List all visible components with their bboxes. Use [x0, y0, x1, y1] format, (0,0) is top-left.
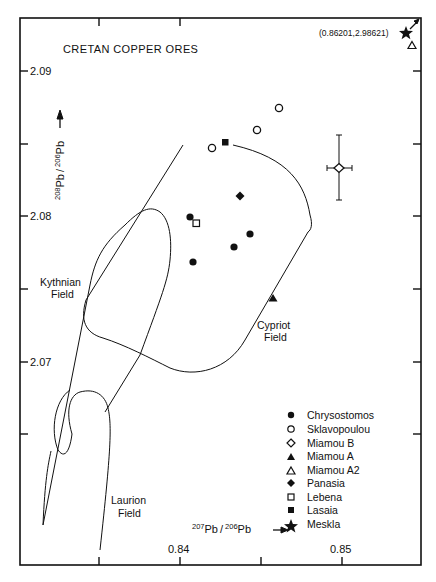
y-axis-arrow-icon [57, 110, 63, 128]
chart-title: CRETAN COPPER ORES [63, 43, 198, 55]
kythnian-field-label-2: Field [51, 288, 74, 300]
legend-label: Lebena [307, 491, 342, 503]
kythnian-field-outline [43, 209, 171, 525]
legend-marker-lasaia-icon [288, 507, 294, 513]
legend-marker-miamou-a2-icon [287, 467, 295, 474]
legend-marker-panasia-icon [287, 479, 295, 487]
y-axis-ticks [20, 71, 421, 434]
series-lasaia-point [222, 139, 229, 146]
meskla-coords-annotation: (0.86201,2.98621) [319, 28, 389, 38]
y-tick-label-2.07: 2.07 [30, 356, 51, 368]
legend-marker-sklavopoulou-icon [288, 426, 294, 432]
series-panasia-point [236, 192, 245, 201]
cypriot-field-label-2: Field [264, 331, 287, 343]
data-point [246, 230, 253, 237]
x-tick-label-0.84: 0.84 [168, 543, 189, 555]
data-point [230, 243, 237, 250]
data-point [189, 258, 196, 265]
legend-marker-miamou-b-icon [287, 439, 295, 447]
laurion-field-outline [54, 390, 110, 550]
y-axis-label: 208Pb/206Pb [53, 141, 66, 200]
series-miamou-b [327, 135, 352, 200]
series-miamou-a2-point [408, 42, 416, 49]
x-axis-label: 207Pb/206Pb [192, 522, 251, 535]
legend-marker-lebena-icon [288, 494, 294, 500]
data-point [275, 104, 282, 111]
laurion-field-label: Laurion [111, 494, 146, 506]
legend-label: Meskla [307, 518, 340, 530]
legend-label: Miamou A [307, 450, 354, 462]
series-sklavopoulou [208, 104, 282, 151]
legend-label: Sklavopoulou [307, 423, 370, 435]
legend-label: Miamou A2 [307, 464, 360, 476]
svg-text:208Pb/206Pb: 208Pb/206Pb [53, 141, 66, 200]
legend: Chrysostomos Sklavopoulou Miamou B Miamo… [284, 409, 374, 533]
legend-marker-chrysostomos-icon [288, 412, 294, 418]
field-outlines [43, 145, 311, 550]
laurion-field-label-2: Field [118, 507, 141, 519]
series-lebena-point [193, 220, 200, 227]
legend-label: Miamou B [307, 437, 354, 449]
data-point [253, 126, 260, 133]
cypriot-field-label: Cypriot [257, 319, 290, 331]
legend-label: Lasaia [307, 504, 338, 516]
data-point [208, 144, 215, 151]
legend-label: Panasia [307, 477, 345, 489]
kythnian-field-label: Kythnian [40, 276, 81, 288]
x-axis-ticks [99, 18, 342, 565]
data-point [334, 164, 344, 173]
legend-marker-miamou-a-icon [287, 453, 295, 460]
isotope-scatter-chart: 2.09 2.08 2.07 0.84 0.85 CRETAN COPPER O… [0, 0, 436, 582]
legend-label: Chrysostomos [307, 409, 374, 421]
x-tick-label-0.85: 0.85 [330, 543, 351, 555]
meskla-arrow-icon [410, 19, 419, 29]
y-tick-label-2.08: 2.08 [30, 210, 51, 222]
y-tick-label-2.09: 2.09 [30, 65, 51, 77]
plot-frame [20, 18, 421, 565]
x-axis-arrow-icon [273, 527, 288, 533]
